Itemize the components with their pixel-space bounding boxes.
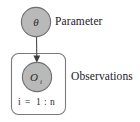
node-parameter-symbol: θ bbox=[33, 16, 39, 28]
label-parameter: Parameter bbox=[55, 15, 103, 27]
arrowhead-icon bbox=[33, 56, 40, 63]
plate-notation-diagram: θ O i i = 1 : n Parameter Observations bbox=[0, 0, 140, 122]
plate-index-label: i = 1 : n bbox=[18, 97, 55, 107]
node-observation-subscript: i bbox=[40, 78, 42, 86]
plate-index-equals: = bbox=[25, 97, 30, 107]
plate-index-end: n bbox=[50, 97, 55, 107]
plate-index-variable: i bbox=[18, 97, 21, 107]
node-observation-symbol: O bbox=[30, 71, 38, 83]
plate-index-start: 1 bbox=[36, 97, 41, 107]
plate-index-colon: : bbox=[44, 97, 47, 107]
label-observations: Observations bbox=[71, 70, 133, 82]
